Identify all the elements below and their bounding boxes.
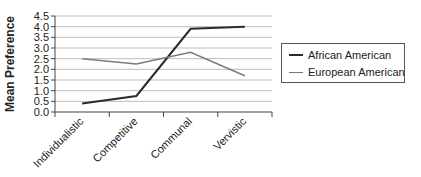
y-axis: 0.00.51.01.52.02.53.03.54.04.5 — [34, 10, 55, 118]
legend-item-european-american: European American — [289, 64, 405, 80]
x-category-label: Communal — [148, 115, 194, 161]
line-chart: 0.00.51.01.52.02.53.03.54.04.5 Individua… — [0, 0, 421, 177]
legend-item-african-american: African American — [289, 47, 391, 63]
y-tick-label: 2.5 — [34, 53, 49, 65]
data-series — [82, 27, 245, 104]
x-category-label: Individualistic — [31, 115, 86, 170]
y-tick-label: 4.5 — [34, 10, 49, 22]
y-tick-label: 1.0 — [34, 85, 49, 97]
legend-label: African American — [308, 49, 391, 61]
y-tick-label: 4.0 — [34, 21, 49, 33]
y-tick-label: 0.5 — [34, 95, 49, 107]
y-tick-label: 3.5 — [34, 31, 49, 43]
x-category-label: Competitive — [90, 115, 140, 165]
y-tick-label: 1.5 — [34, 74, 49, 86]
y-tick-label: 2.0 — [34, 63, 49, 75]
y-axis-title: Mean Preference — [3, 16, 17, 112]
legend-swatch-european-american — [289, 72, 303, 73]
y-tick-label: 0.0 — [34, 106, 49, 118]
legend-label: European American — [308, 66, 405, 78]
legend-swatch-african-american — [289, 54, 303, 56]
y-tick-label: 3.0 — [34, 42, 49, 54]
x-category-label: Vervistic — [211, 115, 249, 153]
legend: African American European American — [281, 43, 405, 83]
series-line-european-american — [82, 52, 245, 75]
x-axis: IndividualisticCompetitiveCommunalVervis… — [31, 112, 272, 170]
